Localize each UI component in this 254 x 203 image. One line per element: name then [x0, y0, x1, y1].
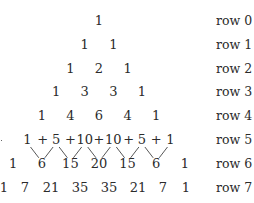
triangle-entry: 15	[119, 157, 136, 171]
triangle-entry: 3	[109, 85, 117, 99]
plus-sign: +	[151, 133, 162, 147]
row-label: row 7	[216, 181, 252, 195]
triangle-entry: 10	[105, 133, 122, 147]
triangle-entry: 1	[81, 38, 89, 52]
plus-sign: +	[65, 133, 76, 147]
triangle-entry: 1	[0, 181, 8, 195]
plus-sign: +	[94, 133, 105, 147]
triangle-entry: 1	[181, 157, 189, 171]
triangle-entry: 5	[52, 133, 60, 147]
triangle-entry: 1	[9, 157, 17, 171]
triangle-entry: 1	[52, 85, 60, 99]
triangle-entry: 7	[21, 181, 29, 195]
row-label: row 4	[216, 109, 252, 123]
row-label: row 1	[216, 38, 252, 52]
triangle-entry: 3	[81, 85, 89, 99]
row-label: row 5	[216, 133, 252, 147]
pascal-triangle-diagram: 1row 011row 1121row 21331row 314641row 4…	[0, 0, 254, 203]
plus-sign: +	[123, 133, 134, 147]
triangle-entry: 6	[152, 157, 160, 171]
triangle-entry: 2	[95, 62, 103, 76]
triangle-entry: 15	[62, 157, 79, 171]
triangle-entry: 6	[95, 109, 103, 123]
triangle-entry: 35	[101, 181, 118, 195]
triangle-entry: 21	[43, 181, 60, 195]
triangle-entry: 1	[95, 14, 103, 28]
triangle-entry: 4	[123, 109, 131, 123]
triangle-entry: 4	[66, 109, 74, 123]
triangle-entry: 1	[152, 109, 160, 123]
triangle-entry: 21	[130, 181, 147, 195]
connector-line	[45, 147, 53, 158]
triangle-entry: 1	[123, 62, 131, 76]
triangle-entry: 1	[166, 133, 174, 147]
row-label: row 6	[216, 157, 252, 171]
row-label: row 2	[216, 62, 252, 76]
plus-sign: +	[37, 133, 48, 147]
row-label: row 0	[216, 14, 252, 28]
triangle-entry: 1	[23, 133, 31, 147]
row-label: row 3	[216, 85, 252, 99]
triangle-entry: 6	[38, 157, 46, 171]
triangle-entry: 10	[76, 133, 93, 147]
triangle-entry: 35	[72, 181, 89, 195]
connector-line	[159, 147, 167, 158]
triangle-entry: 1	[138, 85, 146, 99]
triangle-entry: 1	[38, 109, 46, 123]
triangle-entry: 1	[66, 62, 74, 76]
triangle-entry: 5	[138, 133, 146, 147]
triangle-entry: 7	[159, 181, 167, 195]
triangle-entry: 1	[109, 38, 117, 52]
sum-connector-lines	[0, 0, 254, 203]
stray-mark	[1, 140, 2, 141]
triangle-entry: 1	[182, 181, 190, 195]
triangle-entry: 20	[91, 157, 108, 171]
